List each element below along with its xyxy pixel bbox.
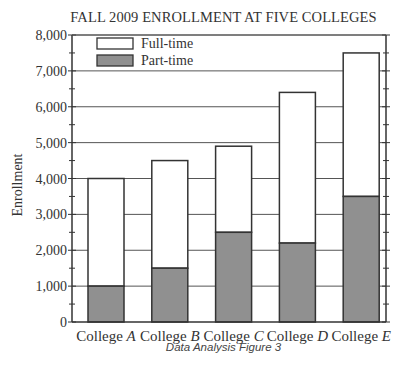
y-tick-label: 3,000 bbox=[36, 207, 68, 222]
bar-full-time bbox=[152, 161, 188, 269]
bar-group bbox=[152, 161, 188, 322]
bar-part-time bbox=[88, 286, 124, 322]
y-tick-label: 8,000 bbox=[36, 28, 68, 43]
bars bbox=[88, 53, 379, 322]
y-tick-label: 0 bbox=[60, 315, 67, 330]
y-tick-labels: 01,0002,0003,0004,0005,0006,0007,0008,00… bbox=[36, 28, 68, 330]
legend-label-part-time: Part-time bbox=[141, 53, 193, 68]
bar-full-time bbox=[279, 92, 315, 243]
bar-group bbox=[279, 92, 315, 322]
legend-swatch-part-time bbox=[97, 55, 133, 66]
y-tick-label: 2,000 bbox=[36, 243, 68, 258]
bar-part-time bbox=[152, 268, 188, 322]
bar-group bbox=[88, 179, 124, 323]
bar-part-time bbox=[343, 196, 379, 322]
stacked-bar-chart: 01,0002,0003,0004,0005,0006,0007,0008,00… bbox=[0, 0, 407, 376]
bar-group bbox=[216, 146, 252, 322]
bar-full-time bbox=[343, 53, 379, 197]
bar-full-time bbox=[216, 146, 252, 232]
y-tick-label: 7,000 bbox=[36, 64, 68, 79]
legend-swatch-full-time bbox=[97, 38, 133, 49]
bar-group bbox=[343, 53, 379, 322]
y-tick-label: 5,000 bbox=[36, 136, 68, 151]
y-tick-label: 1,000 bbox=[36, 279, 68, 294]
y-tick-label: 4,000 bbox=[36, 172, 68, 187]
bar-full-time bbox=[88, 179, 124, 287]
bar-part-time bbox=[279, 243, 315, 322]
y-tick-label: 6,000 bbox=[36, 100, 68, 115]
figure-caption: Data Analysis Figure 3 bbox=[0, 341, 407, 353]
legend: Full-time Part-time bbox=[97, 36, 193, 68]
bar-part-time bbox=[216, 232, 252, 322]
legend-label-full-time: Full-time bbox=[141, 36, 193, 51]
